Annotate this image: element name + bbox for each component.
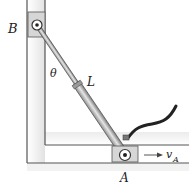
slider-crank-diagram: B θ L A v A bbox=[0, 0, 189, 188]
outer-floor-shade bbox=[27, 163, 189, 171]
hose-fitting bbox=[123, 135, 129, 140]
label-a: A bbox=[119, 171, 129, 185]
label-b: B bbox=[7, 21, 18, 36]
velocity-arrowhead bbox=[157, 153, 163, 158]
label-velocity-subscript: A bbox=[172, 155, 179, 164]
pin-a-center bbox=[123, 153, 127, 157]
pin-b-center bbox=[35, 23, 39, 27]
label-velocity: v bbox=[166, 148, 173, 161]
label-theta: θ bbox=[50, 67, 57, 80]
label-length: L bbox=[86, 75, 95, 89]
